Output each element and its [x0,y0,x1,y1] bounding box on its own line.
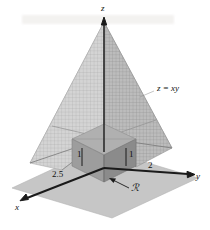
axis-label-x: x [15,203,19,212]
surface-figure [0,0,210,230]
axis-label-z: z [101,4,105,13]
dimension-label-y-extent: 2 [148,161,153,170]
region-label: ℛ [131,183,139,193]
surface-equation-label: z = xy [157,84,179,93]
dimension-label-height-right: 1 [129,150,134,159]
axis-label-y: y [196,172,200,181]
dimension-label-height-left: 1 [77,150,82,159]
dimension-label-x-extent: 2.5 [52,170,63,179]
